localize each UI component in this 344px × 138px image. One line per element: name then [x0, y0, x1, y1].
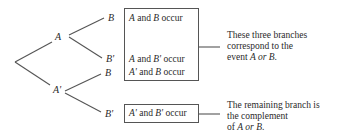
outcome-a-prime-and-b: A' and B occur [129, 68, 185, 78]
branch-a-to-b [69, 18, 104, 35]
outcome-a-and-b-prime: A and B' occur [129, 55, 185, 65]
node-a: A [55, 32, 61, 42]
outcome-a-prime-and-b-prime: A' and B' occur [129, 109, 187, 119]
node-b-upper: B [108, 13, 114, 23]
node-b-prime-upper: B' [106, 54, 114, 64]
branch-a-prime-to-b [65, 74, 101, 91]
outcome-a-and-b: A and B occur [129, 14, 183, 24]
branch-root-to-a [15, 42, 52, 62]
annotation-complement: The remaining branch is the complement o… [227, 100, 344, 133]
branch-a-to-b-prime [69, 37, 102, 58]
node-a-prime: A' [53, 85, 61, 95]
node-b-prime-lower: B' [105, 109, 113, 119]
node-b-lower: B [105, 68, 111, 78]
branch-root-to-a-prime [15, 62, 50, 85]
branch-a-prime-to-b-prime [65, 93, 101, 112]
annotation-union: These three branches correspond to the e… [227, 30, 344, 63]
